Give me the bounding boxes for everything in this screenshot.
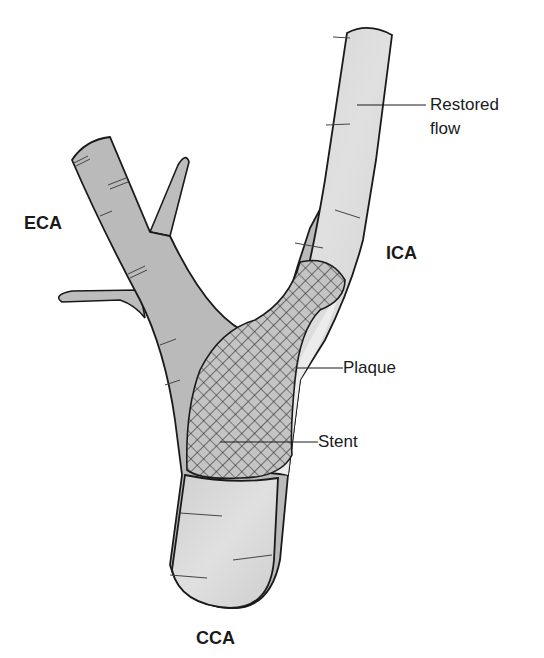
label-plaque: Plaque — [343, 358, 396, 378]
label-restored-line2: flow — [430, 119, 460, 139]
label-stent: Stent — [318, 432, 358, 452]
label-cca: CCA — [196, 628, 235, 650]
cca-vessel — [172, 475, 278, 608]
label-restored-line1: Restored — [430, 95, 499, 115]
label-ica: ICA — [386, 243, 417, 265]
label-eca: ECA — [24, 213, 62, 235]
eca-upper-branch — [150, 158, 189, 236]
eca-left-branch — [59, 290, 145, 318]
